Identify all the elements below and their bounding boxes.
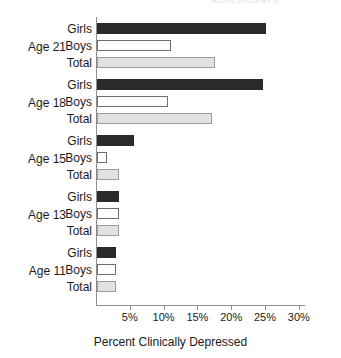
bar-boys bbox=[97, 208, 119, 219]
x-axis-tick bbox=[197, 305, 198, 310]
x-axis-title: Percent Clinically Depressed bbox=[0, 335, 341, 349]
bar-series-label: Girls bbox=[58, 134, 92, 148]
bar-series-label: Girls bbox=[58, 190, 92, 204]
bar-boys bbox=[97, 96, 168, 107]
bar-series-label: Total bbox=[58, 56, 92, 70]
bar-total bbox=[97, 169, 119, 180]
bar-total bbox=[97, 113, 212, 124]
bar-series-label: Boys bbox=[58, 95, 92, 109]
chart-bar-row: Girls bbox=[0, 246, 341, 260]
bar-total bbox=[97, 225, 119, 236]
chart-bar-row: Total bbox=[0, 112, 341, 126]
chart-bar-row: Girls bbox=[0, 78, 341, 92]
bar-series-label: Total bbox=[58, 280, 92, 294]
chart-group: Age 18GirlsBoysTotal bbox=[0, 78, 341, 129]
chart-bar-row: Girls bbox=[0, 190, 341, 204]
x-axis-tick-label: 30% bbox=[279, 311, 319, 323]
bar-total bbox=[97, 281, 116, 292]
bar-series-label: Girls bbox=[58, 22, 92, 36]
bar-girls bbox=[97, 23, 266, 34]
bar-series-label: Boys bbox=[58, 151, 92, 165]
bar-series-label: Total bbox=[58, 168, 92, 182]
chart-bar-row: Boys bbox=[0, 39, 341, 53]
x-axis-line bbox=[96, 305, 305, 306]
bar-series-label: Total bbox=[58, 224, 92, 238]
bar-boys bbox=[97, 264, 116, 275]
bar-chart: ADOLESCENTS 5%10%15%20%25%30% Age 21Girl… bbox=[0, 0, 341, 358]
chart-bar-row: Boys bbox=[0, 151, 341, 165]
bar-total bbox=[97, 57, 215, 68]
chart-bar-row: Total bbox=[0, 280, 341, 294]
clipped-page-header: ADOLESCENTS bbox=[185, 0, 305, 5]
x-axis-tick bbox=[231, 305, 232, 310]
bar-girls bbox=[97, 79, 263, 90]
bar-girls bbox=[97, 247, 116, 258]
x-axis-tick bbox=[265, 305, 266, 310]
bar-girls bbox=[97, 191, 119, 202]
chart-bar-row: Girls bbox=[0, 22, 341, 36]
x-axis-tick bbox=[164, 305, 165, 310]
chart-group: Age 15GirlsBoysTotal bbox=[0, 134, 341, 185]
bar-series-label: Boys bbox=[58, 207, 92, 221]
chart-bar-row: Girls bbox=[0, 134, 341, 148]
bar-series-label: Boys bbox=[58, 39, 92, 53]
bar-series-label: Girls bbox=[58, 246, 92, 260]
bar-series-label: Boys bbox=[58, 263, 92, 277]
x-axis-tick bbox=[130, 305, 131, 310]
chart-bar-row: Boys bbox=[0, 263, 341, 277]
chart-bar-row: Boys bbox=[0, 207, 341, 221]
bar-boys bbox=[97, 40, 171, 51]
x-axis-tick bbox=[299, 305, 300, 310]
chart-group: Age 11GirlsBoysTotal bbox=[0, 246, 341, 297]
chart-bar-row: Boys bbox=[0, 95, 341, 109]
bar-series-label: Girls bbox=[58, 78, 92, 92]
bar-girls bbox=[97, 135, 134, 146]
bar-series-label: Total bbox=[58, 112, 92, 126]
bar-boys bbox=[97, 152, 107, 163]
chart-bar-row: Total bbox=[0, 224, 341, 238]
chart-group: Age 13GirlsBoysTotal bbox=[0, 190, 341, 241]
chart-bar-row: Total bbox=[0, 56, 341, 70]
chart-group: Age 21GirlsBoysTotal bbox=[0, 22, 341, 73]
chart-bar-row: Total bbox=[0, 168, 341, 182]
